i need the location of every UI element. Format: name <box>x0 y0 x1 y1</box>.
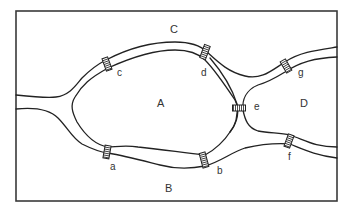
bridges-layer <box>102 44 294 168</box>
bridge-g <box>280 59 292 73</box>
region-label-a: A <box>157 97 165 109</box>
bank-south-east <box>205 144 337 166</box>
region-label-b: B <box>165 182 172 194</box>
bridge-c <box>102 57 112 71</box>
bridge-label-c: c <box>117 67 122 78</box>
bridge-label-b: b <box>217 165 223 176</box>
bridge-d <box>200 44 210 59</box>
region-label-d: D <box>300 97 308 109</box>
bridge-label-e: e <box>254 101 260 112</box>
bank-north-east <box>207 47 337 77</box>
region-label-c: C <box>170 23 178 35</box>
bridge-label-d: d <box>201 67 207 78</box>
map-frame <box>16 11 337 201</box>
bridge-a <box>103 145 111 159</box>
bridge-label-f: f <box>288 151 291 162</box>
bridge-label-g: g <box>298 67 304 78</box>
bank-channel-west <box>210 58 237 132</box>
bridge-label-a: a <box>110 161 116 172</box>
konigsberg-bridges-diagram: C A B D c d g e a b f <box>0 0 353 217</box>
river-banks <box>16 42 337 168</box>
bridge-e <box>233 105 246 111</box>
bank-west-bottom-to-south <box>16 108 205 168</box>
bridge-f <box>284 134 294 148</box>
